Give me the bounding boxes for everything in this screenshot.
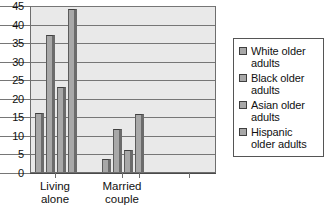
bar: [57, 87, 66, 172]
bar: [46, 35, 55, 172]
legend-item[interactable]: Asian older adults: [239, 99, 318, 123]
y-axis-tick: [0, 154, 30, 155]
gridline: [31, 43, 215, 44]
bar-chart-figure: 051015202530354045 Living aloneMarried c…: [0, 0, 330, 220]
legend-swatch-icon: [239, 74, 247, 82]
legend-item[interactable]: Hispanic older adults: [239, 126, 318, 150]
chart-legend: White older adultsBlack older adultsAsia…: [233, 38, 324, 157]
y-axis-tick-label: 40: [12, 20, 24, 31]
y-axis-tick-label: 35: [12, 38, 24, 49]
legend-item-label: Asian older adults: [251, 99, 318, 123]
y-axis-tick-label: 5: [18, 149, 24, 160]
bar: [113, 129, 122, 172]
y-axis-tick-label: 25: [12, 75, 24, 86]
y-axis-tick-label: 10: [12, 131, 24, 142]
x-axis-tick: [55, 173, 56, 178]
legend-swatch-icon: [239, 101, 247, 109]
gridline: [31, 6, 215, 7]
x-axis-tick: [139, 173, 140, 178]
gridline: [31, 62, 215, 63]
gridline: [31, 80, 215, 81]
y-axis: 051015202530354045: [0, 6, 30, 173]
y-axis-tick-label: 15: [12, 112, 24, 123]
y-axis-tick: [0, 173, 30, 174]
y-axis-tick-label: 30: [12, 57, 24, 68]
legend-item-label: White older adults: [251, 45, 318, 69]
x-axis-tick: [122, 173, 123, 178]
plot-area: [30, 6, 216, 173]
gridline: [31, 25, 215, 26]
plot-area-wrapper: [30, 6, 216, 173]
legend-item-label: Hispanic older adults: [251, 126, 318, 150]
legend-item[interactable]: White older adults: [239, 45, 318, 69]
x-axis-tick: [189, 173, 190, 178]
y-axis-tick-label: 0: [18, 168, 24, 179]
y-axis-tick-label: 45: [12, 1, 24, 12]
legend-item-label: Black older adults: [251, 72, 318, 96]
bar: [102, 159, 111, 172]
bar: [68, 9, 77, 172]
y-axis-tick-label: 20: [12, 94, 24, 105]
legend-swatch-icon: [239, 128, 247, 136]
x-axis-category-label: Married couple: [82, 180, 162, 206]
bar: [135, 114, 144, 172]
bar: [35, 113, 44, 172]
legend-swatch-icon: [239, 47, 247, 55]
legend-item[interactable]: Black older adults: [239, 72, 318, 96]
bar: [124, 150, 133, 172]
